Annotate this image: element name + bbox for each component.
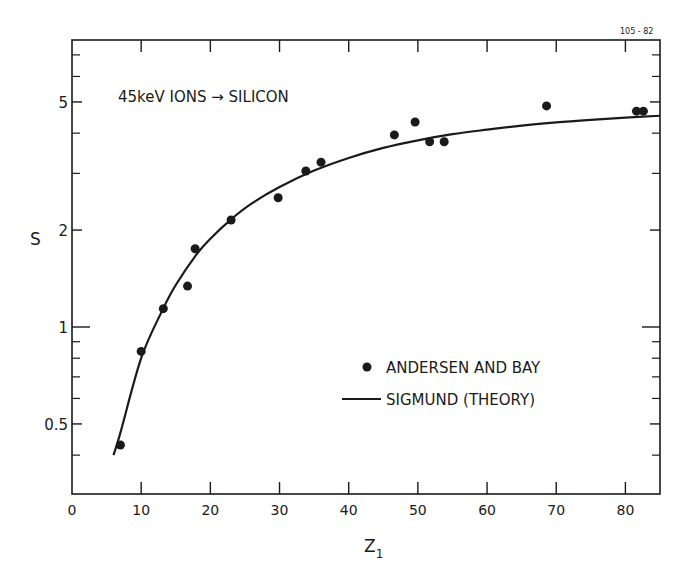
legend-points-label: ANDERSEN AND BAY <box>386 359 541 377</box>
x-axis-ticks: 01020304050607080 <box>68 40 635 518</box>
data-point <box>183 282 192 291</box>
andersen-bay-points <box>116 101 648 449</box>
legend-point-marker <box>363 363 372 372</box>
y-tick-label: 0.5 <box>44 416 68 434</box>
y-tick-label: 2 <box>58 222 68 240</box>
x-tick-label: 40 <box>340 502 358 518</box>
x-tick-label: 30 <box>271 502 289 518</box>
data-point <box>390 130 399 139</box>
data-point <box>411 118 420 127</box>
plot-frame <box>72 40 660 494</box>
x-tick-label: 10 <box>132 502 150 518</box>
legend: ANDERSEN AND BAY SIGMUND (THEORY) <box>342 359 541 409</box>
chart: 01020304050607080 0.5125 105 - 82 45keV … <box>0 0 680 574</box>
data-point <box>542 101 551 110</box>
figure-id: 105 - 82 <box>620 27 653 36</box>
data-point <box>317 158 326 167</box>
annotation-title: 45keV IONS → SILICON <box>118 88 289 106</box>
y-axis-label: S <box>30 229 41 249</box>
data-point <box>137 347 146 356</box>
legend-line-label: SIGMUND (THEORY) <box>386 391 535 409</box>
y-axis-ticks: 0.5125 <box>44 55 660 455</box>
x-tick-label: 60 <box>478 502 496 518</box>
x-tick-label: 50 <box>409 502 427 518</box>
x-axis-label: Z1 <box>364 536 383 561</box>
y-tick-label: 5 <box>58 94 68 112</box>
y-tick-label: 1 <box>58 319 68 337</box>
data-point <box>274 193 283 202</box>
data-point <box>440 137 449 146</box>
data-point <box>191 244 200 253</box>
x-tick-label: 80 <box>616 502 634 518</box>
data-point <box>425 137 434 146</box>
x-tick-label: 20 <box>201 502 219 518</box>
data-point <box>159 304 168 313</box>
x-tick-label: 70 <box>547 502 565 518</box>
data-point <box>301 167 310 176</box>
data-point <box>639 107 648 116</box>
data-point <box>116 441 125 450</box>
x-tick-label: 0 <box>68 502 77 518</box>
data-point <box>227 215 236 224</box>
